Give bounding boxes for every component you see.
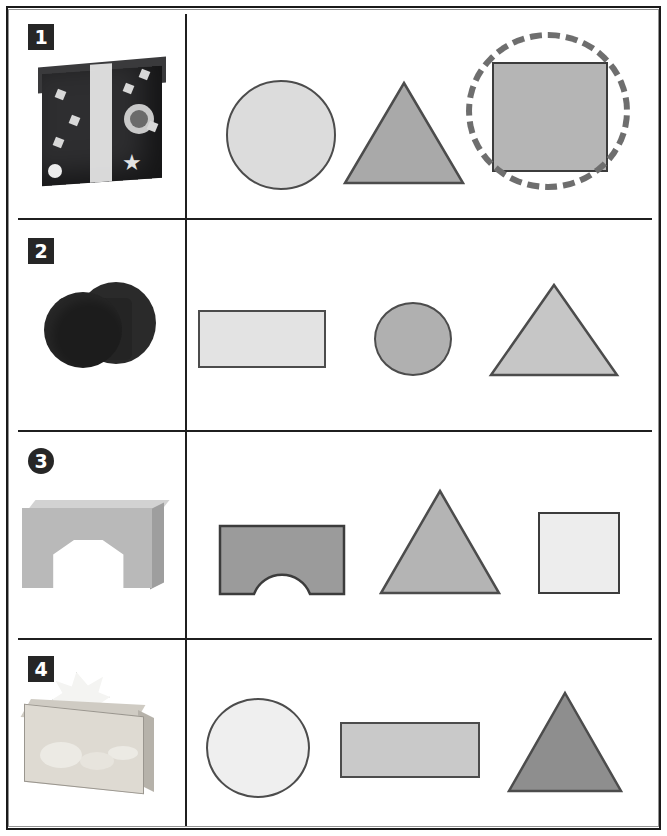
round-black-box-photo	[42, 276, 162, 386]
gift-box-dot-small	[48, 164, 62, 178]
gift-box-ribbon	[90, 63, 112, 183]
gift-box-photo: ★	[36, 56, 168, 184]
row-divider-1	[18, 218, 652, 220]
row-divider-2	[18, 430, 652, 432]
shape-circle-row1[interactable]	[226, 80, 336, 190]
shape-rectangle-row4[interactable]	[340, 722, 480, 778]
shape-circle-row2[interactable]	[374, 302, 452, 376]
arch-block-photo	[22, 500, 170, 596]
arch-block-front-face	[22, 508, 152, 588]
round-box-front-disc	[44, 292, 122, 368]
gift-box-star-sticker: ★	[122, 152, 142, 174]
shape-rectangle-row2[interactable]	[198, 310, 326, 368]
shape-triangle-row4[interactable]	[506, 690, 624, 794]
arch-block-side-face	[150, 503, 164, 590]
selection-marker-row1	[466, 32, 630, 190]
shape-square-row3[interactable]	[538, 512, 620, 594]
column-divider	[185, 14, 187, 826]
shape-circle-row4[interactable]	[206, 698, 310, 798]
worksheet-page: 1 ★ 2 3	[0, 0, 667, 836]
gift-box-dot-large-inner	[130, 110, 148, 128]
shape-triangle-row3[interactable]	[378, 488, 502, 596]
row-divider-3	[18, 638, 652, 640]
tissue-box-photo	[18, 668, 160, 802]
row-number-badge-3: 3	[28, 448, 54, 474]
row-number-badge-2: 2	[28, 238, 54, 264]
row-number-badge-1: 1	[28, 24, 54, 50]
tissue-box-flower-pattern	[40, 742, 82, 768]
shape-arch-row3[interactable]	[218, 524, 346, 596]
shape-triangle-row1[interactable]	[342, 80, 466, 186]
shape-triangle-row2[interactable]	[488, 282, 620, 378]
